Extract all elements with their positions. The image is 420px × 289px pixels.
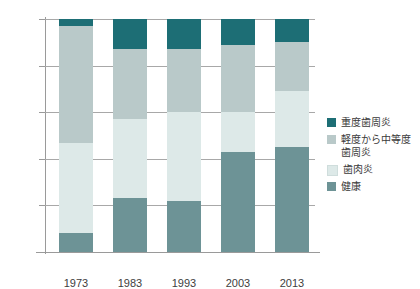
y-tick-mark bbox=[39, 205, 45, 206]
y-tick-mark bbox=[39, 66, 45, 67]
bar-stack-1983 bbox=[113, 19, 147, 252]
legend-item[interactable]: 重度歯周炎 bbox=[327, 116, 419, 129]
bar-stack-2003 bbox=[221, 19, 255, 252]
bar-segment bbox=[221, 112, 255, 152]
bar-segment bbox=[113, 49, 147, 119]
bar-segment bbox=[59, 26, 93, 143]
bar-segment bbox=[275, 147, 309, 252]
legend-label: 歯肉炎 bbox=[343, 163, 373, 176]
chart-legend: 重度歯周炎軽度から中等度 歯周炎歯肉炎健康 bbox=[327, 116, 419, 197]
bar-segment bbox=[59, 233, 93, 252]
y-tick-mark bbox=[39, 112, 45, 113]
bar-segment bbox=[275, 42, 309, 91]
legend-label: 重度歯周炎 bbox=[341, 116, 391, 129]
bar-segment bbox=[275, 19, 309, 42]
legend-item[interactable]: 健康 bbox=[327, 180, 419, 193]
legend-swatch-icon bbox=[327, 165, 338, 176]
legend-swatch-icon bbox=[327, 135, 336, 144]
bar-segment bbox=[113, 119, 147, 198]
bar-segment bbox=[221, 19, 255, 45]
legend-item[interactable]: 軽度から中等度 歯周炎 bbox=[327, 133, 419, 159]
plot-area: 100 %80 %60 %40 %20 %0 %1973198319932003… bbox=[45, 19, 315, 252]
x-axis-tick-label: 2003 bbox=[208, 277, 268, 289]
x-axis-tick-label: 2013 bbox=[262, 277, 322, 289]
bar-segment bbox=[167, 201, 201, 252]
legend-label: 健康 bbox=[341, 180, 361, 193]
bar-segment bbox=[275, 91, 309, 147]
bar-segment bbox=[59, 19, 93, 26]
x-axis-tick-label: 1993 bbox=[154, 277, 214, 289]
legend-label: 軽度から中等度 歯周炎 bbox=[341, 133, 411, 159]
legend-swatch-icon bbox=[327, 182, 336, 191]
legend-swatch-icon bbox=[327, 118, 336, 127]
bar-segment bbox=[221, 152, 255, 252]
bar-segment bbox=[113, 19, 147, 49]
y-tick-mark bbox=[39, 19, 45, 20]
bar-segment bbox=[167, 19, 201, 49]
x-axis-tick-label: 1983 bbox=[100, 277, 160, 289]
bar-segment bbox=[221, 45, 255, 113]
x-axis-tick-label: 1973 bbox=[46, 277, 106, 289]
bar-segment bbox=[167, 49, 201, 112]
bar-stack-2013 bbox=[275, 19, 309, 252]
bar-segment bbox=[167, 112, 201, 201]
y-tick-mark bbox=[39, 252, 45, 253]
bar-stack-1973 bbox=[59, 19, 93, 252]
x-axis-line bbox=[36, 252, 320, 253]
legend-item[interactable]: 歯肉炎 bbox=[327, 163, 419, 176]
bar-segment bbox=[113, 198, 147, 252]
bar-stack-1993 bbox=[167, 19, 201, 252]
bar-segment bbox=[59, 143, 93, 234]
y-tick-mark bbox=[39, 159, 45, 160]
